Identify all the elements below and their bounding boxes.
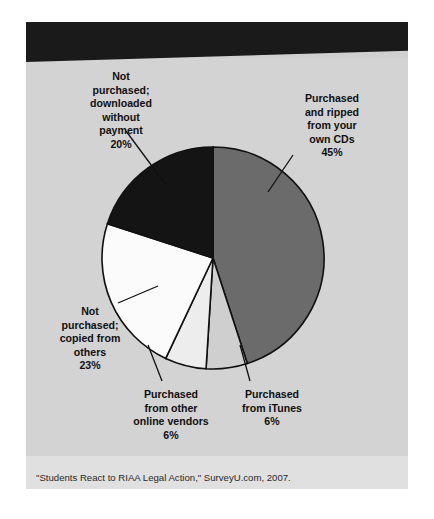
figure-container: HOW DO COLLEGE STUDENTS OBTAIN MUSIC? No… <box>0 0 434 519</box>
source-caption: "Students React to RIAA Legal Action," S… <box>36 472 291 483</box>
pie-label-other-vendors: Purchased from other online vendors 6% <box>112 388 230 442</box>
pie-label-copied-others: Not purchased; copied from others 23% <box>36 305 144 373</box>
pie-label-downloaded-free: Not purchased; downloaded without paymen… <box>62 70 180 152</box>
pie-label-itunes: Purchased from iTunes 6% <box>222 388 322 429</box>
pie-label-ripped-cds: Purchased and ripped from your own CDs 4… <box>278 92 386 160</box>
